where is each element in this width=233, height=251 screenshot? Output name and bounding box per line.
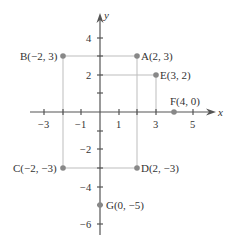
y-axis (97, 13, 104, 235)
y-tick-label: −4 (80, 182, 92, 193)
point-a (134, 53, 140, 59)
y-tick-label: 2 (86, 70, 91, 81)
x-axis-label: x (217, 106, 223, 118)
point-label-b: B(−2, 3) (20, 50, 58, 63)
point-g (97, 202, 103, 208)
point-label-g: G(0, −5) (106, 199, 144, 212)
point-b (60, 53, 66, 59)
x-tick-label: −3 (38, 119, 49, 130)
x-tick-label: 3 (153, 119, 158, 130)
point-label-c: C(−2, −3) (13, 162, 57, 175)
y-tick-label: −6 (80, 219, 91, 230)
y-tick-label: −2 (80, 144, 91, 155)
x-tick-label: 1 (116, 119, 121, 130)
x-axis (30, 109, 216, 116)
x-tick-label: 5 (190, 119, 195, 130)
point-label-f: F(4, 0) (170, 95, 200, 108)
x-tick-label: −1 (75, 119, 86, 130)
point-label-a: A(2, 3) (141, 50, 173, 63)
y-tick-label: 4 (86, 33, 92, 44)
point-c (60, 165, 66, 171)
point-label-d: D(2, −3) (141, 162, 179, 175)
coordinate-plane: x y −3 −1 1 3 5 4 2 −2 −4 −6 A(2, 3) B(−… (0, 0, 233, 251)
point-label-e: E(3, 2) (160, 69, 191, 82)
point-e (153, 72, 159, 78)
y-axis-label: y (103, 9, 109, 21)
point-f (171, 109, 177, 115)
point-d (134, 165, 140, 171)
